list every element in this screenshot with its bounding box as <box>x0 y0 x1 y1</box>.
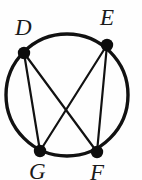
vertex-dot-f <box>91 146 103 158</box>
vertex-dot-e <box>101 39 113 51</box>
vertex-label-f: F <box>90 161 104 180</box>
chord-e-f <box>97 45 107 152</box>
vertex-label-e: E <box>100 6 114 29</box>
vertex-label-d: D <box>15 16 32 39</box>
geometry-figure: D E G F <box>0 0 142 180</box>
chord-d-f <box>24 53 97 152</box>
vertex-label-g: G <box>29 160 46 180</box>
vertex-dot-d <box>18 47 30 59</box>
vertex-dot-g <box>34 145 46 157</box>
chord-e-g <box>40 45 107 151</box>
chord-d-g <box>24 53 40 151</box>
